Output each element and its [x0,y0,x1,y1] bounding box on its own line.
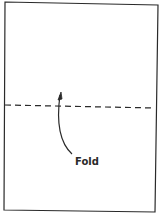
fold-diagram: Fold [0,0,164,220]
fold-line [5,105,155,108]
paper-sheet [4,2,158,212]
arrowhead-icon [58,92,62,100]
fold-label: Fold [75,156,99,167]
curved-arrow [59,95,73,154]
